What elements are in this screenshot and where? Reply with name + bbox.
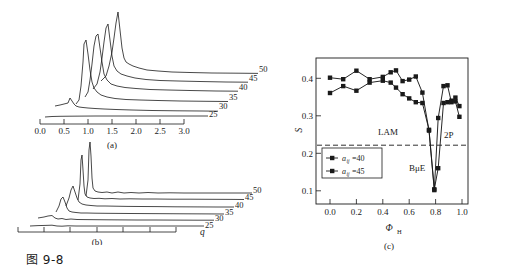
panel-a-xtick-3: 1.5: [106, 126, 118, 136]
curve-30-b: [38, 216, 214, 221]
panel-c-yticklabels: 0.1 0.2 0.3 0.4: [302, 74, 314, 197]
legend-label-1-val: =40: [352, 154, 365, 163]
panel-c-ytick-2: 0.3: [302, 111, 314, 121]
panel-c-ytick-0: 0.1: [302, 186, 313, 196]
panel-c-legend: a ij =40 a ij =45: [322, 148, 382, 178]
panel-c-xtick-4: 0.8: [430, 207, 442, 217]
panel-a-xtick-0: 0.0: [34, 126, 46, 136]
curve-40-a: [85, 34, 238, 97]
panel-c-xlabel-group: Φ H: [385, 223, 402, 235]
curve-label-40-a: 40: [239, 82, 248, 92]
curve-label-50-b: 50: [253, 185, 262, 195]
legend-label-2-sub: ij: [347, 171, 351, 177]
panel-a-xtick-5: 2.5: [154, 126, 166, 136]
panel-c-xticks: [330, 199, 462, 204]
figure-container: 50 45 40 35 30 25 0.0 0.5 1.0 1.5 2.0 2.…: [0, 0, 507, 276]
panel-c-xtick-5: 1.0: [456, 207, 468, 217]
curve-50-a: [101, 12, 258, 81]
curve-label-45-b: 45: [245, 192, 254, 202]
curve-label-25-a: 25: [209, 109, 218, 119]
legend-marker-square-2: [330, 169, 334, 173]
panels-ab-svg: 50 45 40 35 30 25 0.0 0.5 1.0 1.5 2.0 2.…: [0, 0, 300, 245]
panel-c-yticks: [316, 78, 321, 191]
annotation-2p: 2P: [444, 130, 454, 140]
panel-c-ytick-3: 0.4: [302, 74, 314, 84]
curve-label-35-b: 35: [225, 207, 234, 217]
curve-45-a: [93, 24, 248, 89]
panel-a-axis: [40, 119, 184, 124]
annotation-lam: LAM: [378, 127, 398, 137]
curve-label-50-a: 50: [259, 64, 268, 74]
panel-b-curve-labels: 50 45 40 35 30 25: [205, 185, 262, 230]
panel-c-xtick-1: 0.2: [351, 207, 362, 217]
panel-c-xtick-2: 0.4: [377, 207, 389, 217]
curve-40-b: [66, 186, 234, 207]
panel-a-curve-labels: 50 45 40 35 30 25: [209, 64, 268, 119]
curve-label-45-a: 45: [249, 73, 258, 83]
panel-b-axis: [18, 227, 176, 232]
curve-label-30-a: 30: [219, 101, 228, 111]
legend-label-1-var: a: [342, 154, 346, 163]
curve-label-40-b: 40: [235, 200, 244, 210]
curve-label-30-b: 30: [215, 213, 224, 223]
legend-label-2-var: a: [342, 167, 346, 176]
figure-caption: 图 9-8: [26, 250, 64, 267]
panel-a-xtick-1: 0.5: [58, 126, 70, 136]
legend-marker-square-1: [330, 156, 334, 160]
panel-a-xtick-4: 2.0: [130, 126, 142, 136]
curve-25-b: [30, 225, 204, 226]
curve-label-25-b: 25: [205, 220, 214, 230]
panel-c-xlabel-phi: Φ: [385, 223, 392, 233]
legend-label-2-val: =45: [352, 167, 365, 176]
panel-b-axis-label-q: q: [200, 227, 205, 237]
panel-a-label: (a): [107, 140, 117, 150]
panel-c-ytick-1: 0.2: [302, 149, 313, 159]
annotation-bue: BμE: [409, 163, 426, 173]
panel-c-xtick-3: 0.6: [404, 207, 416, 217]
panel-c-label: (c): [384, 241, 394, 251]
curve-label-35-a: 35: [229, 92, 238, 102]
legend-label-1-sub: ij: [347, 158, 351, 164]
panel-c-xticklabels: 0.0 0.2 0.4 0.6 0.8 1.0: [324, 207, 468, 217]
curve-50-b: [86, 142, 252, 196]
panel-c-xlabel-sub: H: [397, 228, 402, 235]
panel-c-ylabel: S: [294, 127, 304, 132]
panel-a-xtick-6: 3.0: [178, 126, 190, 136]
panel-a-xtick-2: 1.0: [82, 126, 94, 136]
curve-25-a: [45, 116, 208, 117]
panel-c-xtick-0: 0.0: [324, 207, 336, 217]
panel-b-label: (b): [92, 237, 103, 245]
panel-c-svg: 0.1 0.2 0.3 0.4 0.0 0.2 0.4 0.6 0.8 1.0 …: [292, 12, 499, 272]
panel-a-xticklabels: 0.0 0.5 1.0 1.5 2.0 2.5 3.0: [34, 126, 190, 136]
curve-35-a: [76, 40, 228, 104]
